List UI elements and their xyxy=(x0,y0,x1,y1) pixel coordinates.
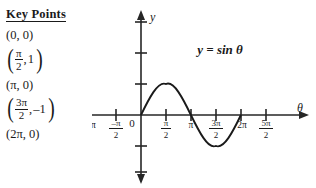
y-axis-arrowhead-up xyxy=(137,10,145,20)
x-tick-label-neg-pi: –π xyxy=(92,120,96,130)
x-tick-label-neg-pi-half: –π 2 xyxy=(109,118,123,140)
fraction: 3π 2 xyxy=(15,97,28,121)
graph-area: y = sin θ y θ 0 –π –π 2 π 2 π 3π xyxy=(92,0,316,188)
right-paren: ) xyxy=(48,98,54,119)
svg-text:–π: –π xyxy=(110,118,121,128)
svg-text:2: 2 xyxy=(114,130,119,140)
key-points-panel: Key Points (0, 0) ( π 2 , 1 ) (π, 0) ( 3… xyxy=(6,4,92,141)
svg-text:5π: 5π xyxy=(261,118,271,128)
y-axis-label: y xyxy=(149,10,156,24)
right-paren: ) xyxy=(36,49,42,70)
sine-plot-svg: y = sin θ y θ 0 –π –π 2 π 2 π 3π xyxy=(92,0,316,188)
svg-text:2: 2 xyxy=(264,130,269,140)
svg-text:3π: 3π xyxy=(211,118,221,128)
equation-label: y = sin θ xyxy=(195,42,243,57)
x-tick-label-3pi-half: 3π 2 xyxy=(209,118,223,140)
key-point-item: ( 3π 2 , –1 ) xyxy=(6,97,92,121)
key-point-item: (0, 0) xyxy=(6,29,92,42)
svg-text:π: π xyxy=(164,118,169,128)
fraction-numerator: π xyxy=(15,48,23,61)
x-tick-label-pi: π xyxy=(189,120,194,130)
fraction: π 2 xyxy=(15,48,23,72)
coordinate-pair: ( 3π 2 , –1 ) xyxy=(6,97,56,121)
fraction-denominator: 2 xyxy=(16,60,22,72)
x-tick-label-5pi-half: 5π 2 xyxy=(259,118,273,140)
x-tick-label-pi-half: π 2 xyxy=(161,118,171,140)
x-axis-label: θ xyxy=(297,101,303,115)
key-point-item: ( π 2 , 1 ) xyxy=(6,48,92,72)
key-points-title: Key Points xyxy=(6,8,66,22)
origin-label: 0 xyxy=(129,117,135,129)
svg-text:2: 2 xyxy=(214,130,219,140)
fraction-denominator: 2 xyxy=(19,110,25,122)
key-point-item: (π, 0) xyxy=(6,79,92,92)
coordinate-y-value: –1 xyxy=(33,103,47,116)
fraction-numerator: 3π xyxy=(15,97,28,110)
left-paren: ( xyxy=(7,49,13,70)
svg-text:2: 2 xyxy=(164,130,169,140)
coordinate-y-value: 1 xyxy=(28,53,35,66)
y-axis-arrowhead-down xyxy=(137,174,145,184)
coordinate-pair: ( π 2 , 1 ) xyxy=(6,48,44,72)
sine-graph-figure: Key Points (0, 0) ( π 2 , 1 ) (π, 0) ( 3… xyxy=(0,0,316,188)
x-tick-label-2pi: 2π xyxy=(237,120,247,130)
key-point-item: (2π, 0) xyxy=(6,128,92,141)
left-paren: ( xyxy=(7,98,13,119)
